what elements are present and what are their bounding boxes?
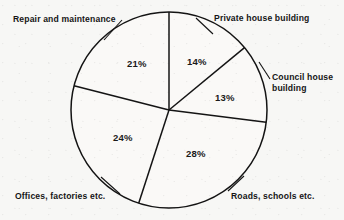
pie-chart-svg (0, 0, 344, 220)
slice-value-repair-maintenance: 21% (127, 58, 147, 69)
category-label-repair-maintenance: Repair and maintenance (13, 14, 116, 25)
category-label-private-house: Private house building (214, 13, 309, 24)
slice-value-council-house: 13% (215, 92, 235, 103)
slice-value-offices-factories: 24% (113, 132, 133, 143)
category-label-offices-factories: Offices, factories etc. (15, 191, 105, 202)
pie-chart-figure: 21% 14% 13% 28% 24% Repair and maintenan… (0, 0, 344, 220)
slice-value-private-house: 14% (187, 56, 207, 67)
category-label-roads-schools: Roads, schools etc. (231, 191, 315, 202)
category-label-council-house-line2: building (272, 83, 307, 94)
category-label-council-house-line1: Council house (272, 72, 333, 83)
slice-value-roads-schools: 28% (186, 148, 206, 159)
